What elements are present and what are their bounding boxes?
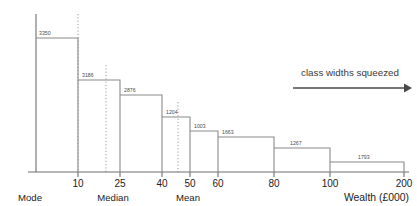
bar-label-60-80: 1663 xyxy=(222,129,234,135)
x-tick-label-40: 40 xyxy=(156,178,168,189)
x-tick-label-60: 60 xyxy=(212,178,224,189)
x-tick-label-200: 200 xyxy=(396,178,413,189)
bar-100-200 xyxy=(330,162,404,172)
bar-25-40 xyxy=(120,95,162,172)
x-tick-label-100: 100 xyxy=(322,178,339,189)
x-tick-label-80: 80 xyxy=(268,178,280,189)
annotation-arrow-head xyxy=(404,84,412,93)
bar-label-0-10: 3350 xyxy=(39,30,51,36)
x-tick-label-10: 10 xyxy=(72,178,84,189)
annotation-label: class widths squeezed xyxy=(301,67,399,78)
bar-label-25-40: 2876 xyxy=(124,87,136,93)
x-axis-tick-labels: 10 25 40 50 60 80 100 200 xyxy=(72,178,412,189)
x-axis-ticks xyxy=(78,172,404,177)
reference-lines xyxy=(78,14,178,172)
bar-0-10 xyxy=(36,38,78,172)
bar-label-40-50: 1204 xyxy=(166,109,178,115)
bar-80-100 xyxy=(274,148,330,172)
histogram-bars xyxy=(36,38,404,172)
stat-label-median: Median xyxy=(97,192,128,203)
bar-label-10-25: 3186 xyxy=(82,72,94,78)
stat-label-mode: Mode xyxy=(18,192,42,203)
x-axis-title: Wealth (£000) xyxy=(344,192,409,203)
x-tick-label-25: 25 xyxy=(114,178,126,189)
histogram-chart: 3350 3186 2876 1204 1003 1663 1267 1793 … xyxy=(0,0,417,206)
bar-40-50 xyxy=(162,117,190,172)
bar-60-80 xyxy=(218,137,274,172)
bar-value-labels: 3350 3186 2876 1204 1003 1663 1267 1793 xyxy=(39,30,370,160)
bar-label-50-60: 1003 xyxy=(194,123,206,129)
bar-50-60 xyxy=(190,131,218,172)
bar-label-80-100: 1267 xyxy=(290,140,302,146)
stat-label-mean: Mean xyxy=(176,192,200,203)
chart-svg: 3350 3186 2876 1204 1003 1663 1267 1793 … xyxy=(0,0,417,206)
annotation-class-widths-squeezed: class widths squeezed xyxy=(293,67,412,93)
bar-label-100-200: 1793 xyxy=(358,154,370,160)
x-tick-label-50: 50 xyxy=(184,178,196,189)
bar-10-25 xyxy=(78,80,120,172)
statistic-labels: Mode Median Mean xyxy=(18,192,200,203)
